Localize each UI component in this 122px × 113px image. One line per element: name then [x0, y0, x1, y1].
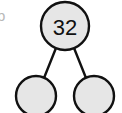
edge-root-to-left-child [44, 48, 56, 78]
node-left-child[interactable] [16, 76, 56, 113]
node-root-label: 32 [53, 15, 77, 40]
binary-tree-figure: b 32 [0, 0, 122, 113]
tree-canvas: b 32 [0, 0, 122, 113]
edge-root-to-right-child [74, 48, 86, 78]
node-right-child[interactable] [74, 76, 114, 113]
margin-clipped-glyph: b [0, 7, 5, 24]
